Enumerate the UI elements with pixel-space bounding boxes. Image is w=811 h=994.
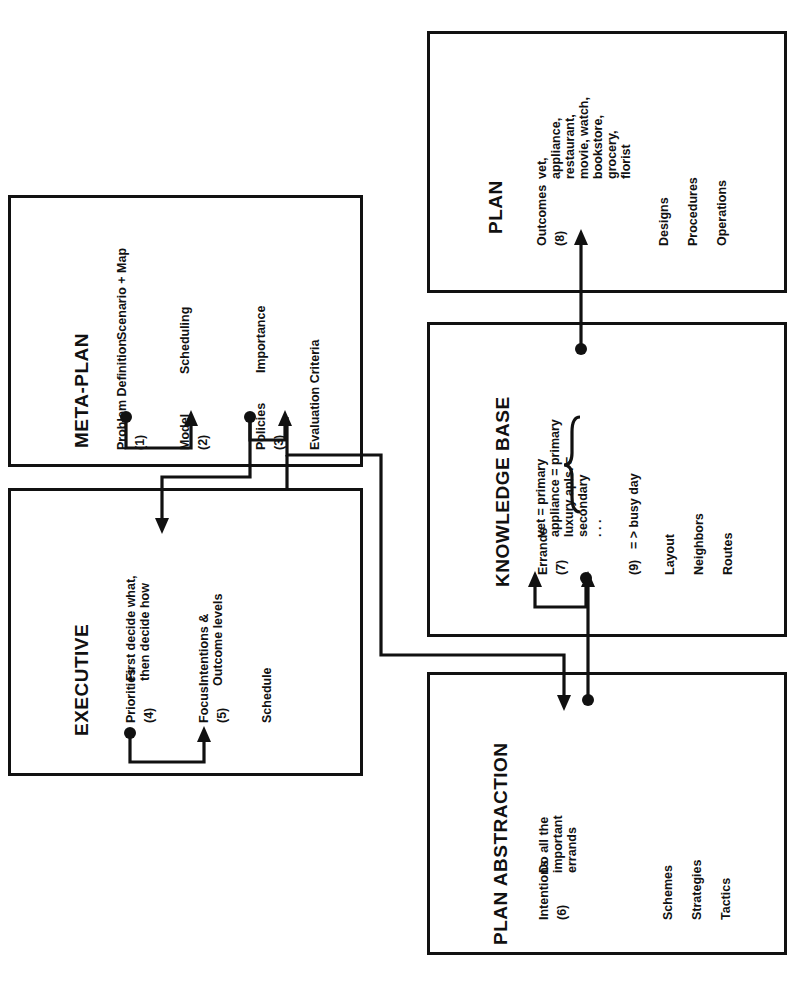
plan-footer-1: Procedures — [686, 177, 700, 246]
metaplan-field-2-num: (3) — [272, 435, 286, 450]
planabstraction-field-0-num: (6) — [555, 905, 569, 920]
knowledgebase-field-1-value: = > busy day — [627, 473, 641, 549]
metaplan-field-0-num: (1) — [133, 435, 147, 450]
knowledgebase-field-0-num: (7) — [554, 560, 568, 575]
metaplan-field-1-label: Model — [178, 414, 192, 450]
plan-footer-2: Operations — [715, 180, 729, 246]
plan-field-0-value: vet,appliance,restaurant,movie, watch,bo… — [535, 97, 633, 179]
box-executive: EXECUTIVE Priorities (4) First decide wh… — [8, 488, 363, 776]
planabstraction-footer-1: Strategies — [690, 860, 704, 920]
knowledgebase-footer-2: Routes — [721, 533, 735, 575]
box-knowledgebase: KNOWLEDGE BASE Errands (7) vet = primary… — [427, 322, 787, 637]
knowledgebase-title: KNOWLEDGE BASE — [492, 396, 514, 587]
executive-field-1-value: Intentions &Outcome levels — [197, 594, 225, 686]
knowledgebase-field-1-num: (9) — [627, 560, 641, 575]
executive-field-1-num: (5) — [215, 708, 229, 723]
metaplan-field-1-num: (2) — [196, 435, 210, 450]
executive-title: EXECUTIVE — [71, 624, 93, 736]
planabstraction-footer-2: Tactics — [719, 878, 733, 920]
metaplan-field-2-label: Policies — [254, 403, 268, 450]
planabstraction-footer-0: Schemes — [661, 865, 675, 920]
metaplan-title: META-PLAN — [71, 333, 93, 448]
knowledgebase-field-0-value: vet = primaryappliance = primaryluxury a… — [534, 419, 604, 537]
box-planabstraction: PLAN ABSTRACTION Intentions (6) Do all t… — [427, 672, 787, 955]
executive-field-0-value: First decide what,then decide how — [124, 575, 152, 681]
metaplan-field-2-value: Importance — [254, 306, 268, 373]
executive-field-1-label: Focus — [197, 686, 211, 723]
plan-footer-0: Designs — [657, 197, 671, 246]
plan-title: PLAN — [485, 180, 507, 234]
knowledgebase-footer-1: Neighbors — [692, 513, 706, 575]
diagram-canvas: META-PLAN Problem Definition (1) Scenari… — [0, 0, 811, 994]
planabstraction-field-0-value: Do all theimportanterrands — [537, 815, 579, 873]
metaplan-footer-0: Evaluation Criteria — [308, 340, 322, 450]
executive-field-0-num: (4) — [142, 708, 156, 723]
box-metaplan: META-PLAN Problem Definition (1) Scenari… — [8, 195, 363, 467]
planabstraction-title: PLAN ABSTRACTION — [490, 742, 512, 945]
box-plan: PLAN Outcomes (8) vet,appliance,restaura… — [427, 31, 787, 293]
metaplan-field-0-value: Scenario + Map — [115, 248, 129, 340]
metaplan-field-0-label: Problem Definition — [115, 339, 129, 450]
knowledgebase-footer-0: Layout — [663, 534, 677, 575]
plan-field-0-label: Outcomes — [535, 185, 549, 246]
errands-brace — [430, 325, 790, 640]
plan-field-0-num: (8) — [553, 231, 567, 246]
executive-footer-0: Schedule — [260, 667, 274, 723]
metaplan-field-1-value: Scheduling — [178, 307, 192, 374]
